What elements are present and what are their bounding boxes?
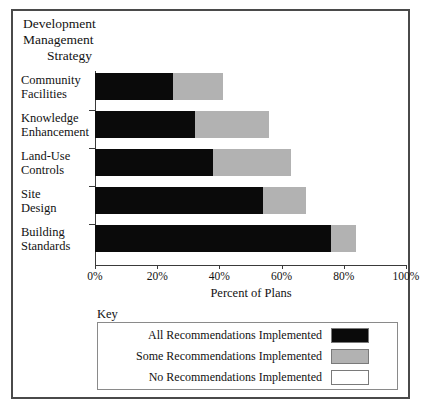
bar-segment (195, 111, 270, 138)
bar-row (95, 73, 406, 100)
category-label-line: Building (21, 225, 95, 239)
bar-segment (95, 187, 263, 214)
legend-entry-label: Some Recommendations Implemented (110, 346, 322, 367)
x-axis-title: Percent of Plans (95, 286, 407, 301)
y-axis-tick (89, 110, 95, 111)
x-axis-tick (344, 265, 345, 269)
x-axis-tick (157, 265, 158, 269)
bar-segment (173, 73, 223, 100)
x-axis-tick-label: 0% (87, 270, 102, 283)
category-label-line: Facilities (21, 87, 95, 101)
plot-area (95, 71, 406, 265)
bar-segment (95, 225, 331, 252)
bar-segment (223, 73, 406, 100)
legend-entry[interactable]: Some Recommendations Implemented (98, 346, 399, 367)
chart-title: Development Management Strategy (21, 16, 141, 64)
x-axis-tick-label: 60% (271, 270, 292, 283)
x-axis-tick (406, 265, 407, 269)
x-axis-tick-label: 40% (209, 270, 230, 283)
chart-title-line-2: Management (21, 32, 141, 48)
chart-figure-frame: Development Management Strategy Communit… (11, 9, 410, 399)
legend-entry-label: All Recommendations Implemented (110, 325, 322, 346)
chart-title-line-1: Development (21, 16, 141, 32)
legend-swatch (331, 349, 369, 364)
category-label-line: Site (21, 187, 95, 201)
bar-segment (95, 73, 173, 100)
x-axis-tick (219, 265, 220, 269)
y-axis-tick (89, 186, 95, 187)
category-label-land-use-controls: Land-Use Controls (21, 149, 95, 177)
x-axis-line (95, 265, 407, 266)
bar-segment (263, 187, 307, 214)
bar-row (95, 225, 406, 252)
category-label-line: Design (21, 201, 95, 215)
legend-entry[interactable]: All Recommendations Implemented (98, 325, 399, 346)
bar-segment (213, 149, 291, 176)
bar-segment (306, 187, 406, 214)
category-label-line: Knowledge (21, 111, 95, 125)
category-label-knowledge-enhancement: Knowledge Enhancement (21, 111, 95, 139)
y-axis-tick (89, 148, 95, 149)
category-label-line: Land-Use (21, 149, 95, 163)
category-label-line: Controls (21, 163, 95, 177)
category-label-line: Standards (21, 239, 95, 253)
legend-title: Key (97, 307, 118, 322)
bar-segment (95, 111, 195, 138)
legend-swatch (331, 370, 369, 385)
legend-box: All Recommendations ImplementedSome Reco… (97, 322, 398, 390)
x-axis-tick-label: 100% (393, 270, 420, 283)
bar-segment (331, 225, 356, 252)
bar-segment (269, 111, 406, 138)
bar-segment (95, 149, 213, 176)
category-label-building-standards: Building Standards (21, 225, 95, 253)
category-label-line: Community (21, 73, 95, 87)
bar-row (95, 149, 406, 176)
x-axis-tick (282, 265, 283, 269)
x-axis-tick-label: 80% (333, 270, 354, 283)
x-axis-tick-label: 20% (147, 270, 168, 283)
category-label-community-facilities: Community Facilities (21, 73, 95, 101)
category-label-line: Enhancement (21, 125, 95, 139)
legend-swatch (331, 328, 369, 343)
bar-row (95, 187, 406, 214)
bar-segment (291, 149, 406, 176)
chart-title-line-3: Strategy (21, 48, 141, 64)
bar-row (95, 111, 406, 138)
y-axis-tick (89, 224, 95, 225)
bar-segment (356, 225, 406, 252)
legend-entry[interactable]: No Recommendations Implemented (98, 367, 399, 388)
legend-entry-label: No Recommendations Implemented (110, 367, 322, 388)
x-axis-tick (95, 265, 96, 269)
category-label-site-design: Site Design (21, 187, 95, 215)
